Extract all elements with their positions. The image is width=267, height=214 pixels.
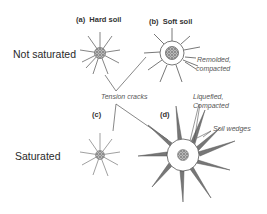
note-soil-wedges: Soil wedges [213,125,251,132]
note-compacted-d: Compacted [193,102,229,109]
note-compacted: compacted [196,65,230,72]
panel-b-label: (b) Soft soil [149,18,192,26]
note-tension-cracks: Tension cracks [101,93,147,100]
row-label-not-saturated: Not saturated [13,49,76,60]
soft-soil-star [144,28,200,82]
panel-b-title: Soft soil [163,17,193,26]
panel-a-label: (a) Hard soil [76,16,121,24]
soil-crack-diagram: Not saturated Saturated (a) Hard soil (b… [0,0,267,214]
note-remolded: Remolded, [197,56,231,63]
saturated-hard-star [80,133,120,176]
note-liquefied: Liquefied, [193,93,223,100]
liquefied-star [138,104,235,202]
panel-a-tag: (a) [76,15,85,24]
panel-d-label: (d) [160,111,170,119]
hard-soil-star [80,32,120,74]
panel-b-tag: (b) [149,17,159,26]
row-label-saturated: Saturated [15,151,61,162]
panel-c-label: (c) [92,111,101,119]
panel-a-title: Hard soil [89,15,121,24]
